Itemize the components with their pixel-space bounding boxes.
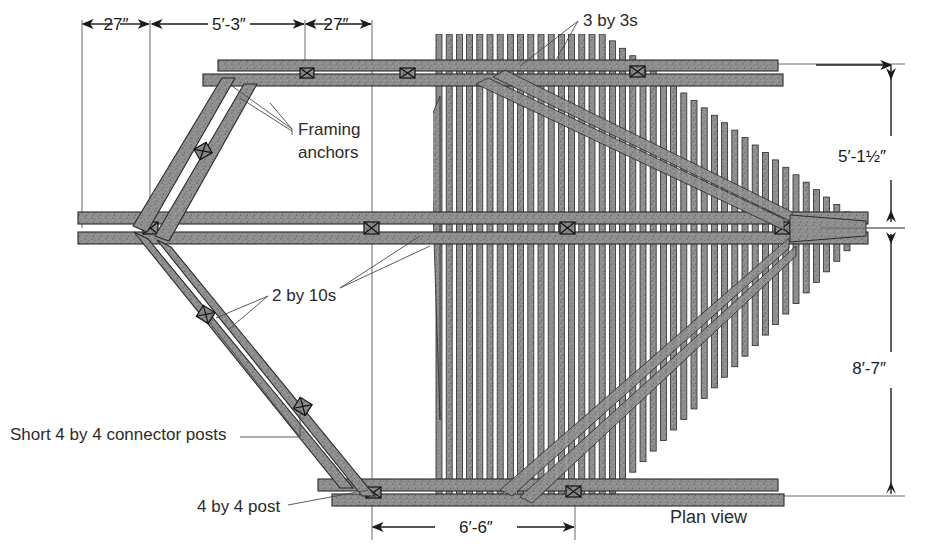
dim-27-left-label: 27″: [104, 15, 129, 34]
slat-3by3: [467, 34, 473, 503]
slat-3by3: [456, 34, 462, 503]
slat-3by3: [446, 34, 452, 503]
slat-3by3: [701, 108, 707, 399]
slat-wedge: [392, 250, 404, 360]
dim-6-6-label: 6′-6″: [459, 518, 493, 537]
slat-3by3: [711, 115, 717, 388]
diagonal-beam-lower-right: [500, 238, 796, 503]
slat-wedge: [372, 276, 382, 344]
dim-27-left: 27″: [83, 15, 149, 34]
anno-3-by-3s-label: 3 by 3s: [583, 11, 638, 30]
slat-3by3: [752, 145, 758, 346]
center-beam-lower: [78, 232, 868, 244]
right-dimension-column: 5′-1½″ 8′-7″: [816, 65, 896, 494]
plan-view-drawing: 27″ 5′-3″ 27″ 5′-1½″ 8′-7″: [0, 0, 931, 549]
dim-8-7: 8′-7″: [852, 232, 896, 494]
slat-3by3: [497, 34, 503, 503]
slat-wedge: [352, 292, 362, 330]
anno-framing-anchors-line1: Framing: [298, 120, 360, 139]
dim-5-1half-label: 5′-1½″: [838, 147, 886, 166]
bottom-dimension-row: 6′-6″: [373, 518, 574, 537]
post-center-mid: [364, 222, 379, 234]
framing-anchor-top-right: [400, 68, 415, 78]
slat-wedge: [430, 96, 440, 420]
slat-3by3: [722, 123, 728, 378]
slat-3by3: [477, 34, 483, 503]
anno-2-by-10s-label: 2 by 10s: [272, 286, 336, 305]
slat-3by3: [660, 78, 666, 441]
dimension-extension-lines: [82, 20, 905, 540]
post-center-right: [560, 222, 575, 234]
anno-connector-posts-label: Short 4 by 4 connector posts: [10, 425, 226, 444]
framing-anchor-top-far-right: [630, 66, 645, 77]
slat-3by3: [732, 130, 738, 367]
dim-5-3: 5′-3″: [152, 15, 304, 34]
slat-3by3: [671, 85, 677, 430]
slat-3by3: [742, 138, 748, 357]
plan-view-label: Plan view: [670, 507, 748, 527]
slat-3by3: [507, 34, 513, 503]
diagonal-beam-lower-left: [134, 232, 375, 496]
drawing-canvas: 27″ 5′-3″ 27″ 5′-1½″ 8′-7″: [0, 0, 931, 549]
anno-framing-anchors-line2: anchors: [298, 143, 358, 162]
dim-5-3-label: 5′-3″: [212, 15, 246, 34]
slat-3by3: [681, 93, 687, 420]
anno-4-by-4-post-label: 4 by 4 post: [197, 497, 280, 516]
post-bottom-right: [566, 486, 581, 497]
dim-27-right-label: 27″: [324, 15, 349, 34]
framing-anchor-top-left: [300, 68, 314, 78]
slat-3by3: [640, 63, 646, 461]
dim-8-7-label: 8′-7″: [852, 359, 886, 378]
annotation-labels: Framing anchors 3 by 3s 2 by 10s Short 4…: [10, 11, 748, 527]
bottom-beam-lower: [332, 494, 784, 506]
slat-3by3: [691, 100, 697, 409]
top-dimension-row: 27″ 5′-3″ 27″: [83, 15, 371, 34]
slat-3by3: [487, 34, 493, 503]
slat-3by3: [650, 71, 656, 451]
dim-27-right: 27″: [306, 15, 371, 34]
